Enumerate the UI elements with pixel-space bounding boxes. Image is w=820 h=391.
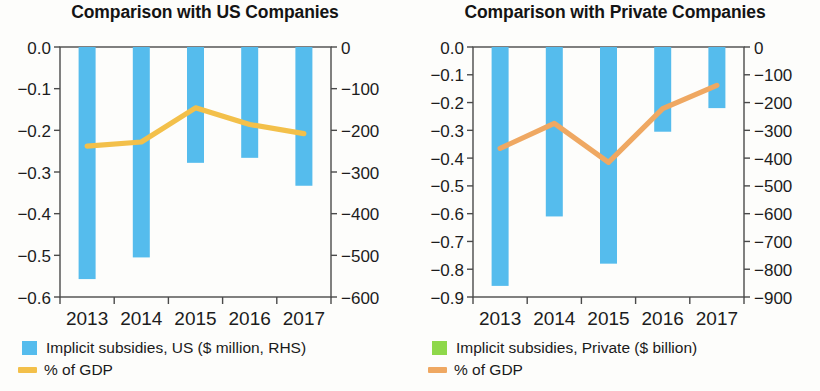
bar — [133, 47, 150, 257]
legend-item-line-private: % of GDP — [410, 359, 820, 381]
y-axis-left-tick-label: 0.0 — [440, 39, 464, 58]
x-axis-tick-label: 2015 — [174, 308, 216, 329]
y-axis-right-tick-label: −600 — [754, 205, 792, 224]
y-axis-left-tick-label: −0.8 — [430, 261, 464, 280]
legend-swatch-bar-icon — [22, 341, 37, 355]
y-axis-right-tick-label: −200 — [341, 122, 379, 141]
y-axis-left-tick-label: −0.3 — [430, 122, 464, 141]
legend-item-bars-us: Implicit subsidies, US ($ million, RHS) — [0, 337, 410, 359]
y-axis-right-tick-label: −300 — [754, 122, 792, 141]
legend-item-line-us: % of GDP — [0, 359, 410, 381]
y-axis-left-tick-label: −0.9 — [430, 289, 464, 308]
bar — [79, 47, 96, 279]
y-axis-right-tick-label: −700 — [754, 233, 792, 252]
legend-swatch-bar-icon — [432, 341, 447, 355]
y-axis-right-tick-label: −400 — [754, 150, 792, 169]
x-axis-tick-label: 2016 — [642, 308, 684, 329]
y-axis-right-tick-label: 0 — [754, 39, 763, 58]
x-axis-tick-label: 2017 — [283, 308, 325, 329]
chart-panel-us: Comparison with US Companies 0.0−0.1−0.2… — [0, 0, 410, 391]
y-axis-left-tick-label: −0.1 — [430, 66, 464, 85]
y-axis-right-tick-label: −300 — [341, 164, 379, 183]
y-axis-left-tick-label: 0.0 — [27, 39, 51, 58]
y-axis-left-tick-label: −0.6 — [430, 205, 464, 224]
y-axis-right-tick-label: −500 — [341, 247, 379, 266]
legend-swatch-line-icon — [18, 367, 37, 373]
bar — [492, 47, 509, 286]
plot-area-private: 0.0−0.1−0.2−0.3−0.4−0.5−0.6−0.7−0.8−0.90… — [410, 0, 820, 340]
y-axis-left-tick-label: −0.2 — [430, 94, 464, 113]
bar — [654, 47, 671, 132]
y-axis-right-tick-label: −800 — [754, 261, 792, 280]
y-axis-right-tick-label: −400 — [341, 205, 379, 224]
legend-label-bars-us: Implicit subsidies, US ($ million, RHS) — [46, 340, 306, 356]
bar — [187, 47, 204, 163]
x-axis-tick-label: 2014 — [120, 308, 163, 329]
legend-private: Implicit subsidies, Private ($ billion) … — [410, 337, 820, 381]
figure-container: Comparison with US Companies 0.0−0.1−0.2… — [0, 0, 820, 391]
legend-label-line-private: % of GDP — [454, 362, 523, 378]
legend-us: Implicit subsidies, US ($ million, RHS) … — [0, 337, 410, 381]
y-axis-left-tick-label: −0.3 — [17, 164, 51, 183]
chart-svg-us: 0.0−0.1−0.2−0.3−0.4−0.5−0.60−100−200−300… — [0, 0, 410, 340]
y-axis-right-tick-label: −500 — [754, 177, 792, 196]
x-axis-tick-label: 2014 — [533, 308, 576, 329]
bar — [708, 47, 725, 108]
y-axis-left-tick-label: −0.7 — [430, 233, 464, 252]
y-axis-left-tick-label: −0.4 — [430, 150, 464, 169]
y-axis-right-tick-label: −100 — [341, 80, 379, 99]
x-axis-tick-label: 2013 — [66, 308, 108, 329]
chart-svg-private: 0.0−0.1−0.2−0.3−0.4−0.5−0.6−0.7−0.8−0.90… — [410, 0, 820, 340]
x-axis-tick-label: 2015 — [587, 308, 629, 329]
y-axis-left-tick-label: −0.6 — [17, 289, 51, 308]
x-axis-tick-label: 2013 — [479, 308, 521, 329]
y-axis-left-tick-label: −0.5 — [17, 247, 51, 266]
y-axis-right-tick-label: −600 — [341, 289, 379, 308]
y-axis-right-tick-label: 0 — [341, 39, 350, 58]
x-axis-tick-label: 2016 — [229, 308, 271, 329]
legend-label-bars-private: Implicit subsidies, Private ($ billion) — [456, 340, 697, 356]
x-axis-tick-label: 2017 — [696, 308, 738, 329]
legend-swatch-line-icon — [428, 367, 447, 373]
y-axis-left-tick-label: −0.2 — [17, 122, 51, 141]
chart-panel-private: Comparison with Private Companies 0.0−0.… — [410, 0, 820, 391]
y-axis-left-tick-label: −0.1 — [17, 80, 51, 99]
legend-item-bars-private: Implicit subsidies, Private ($ billion) — [410, 337, 820, 359]
y-axis-left-tick-label: −0.5 — [430, 177, 464, 196]
bar — [241, 47, 258, 158]
y-axis-right-tick-label: −200 — [754, 94, 792, 113]
y-axis-right-tick-label: −100 — [754, 66, 792, 85]
plot-area-us: 0.0−0.1−0.2−0.3−0.4−0.5−0.60−100−200−300… — [0, 0, 410, 340]
legend-label-line-us: % of GDP — [44, 362, 113, 378]
y-axis-right-tick-label: −900 — [754, 289, 792, 308]
y-axis-left-tick-label: −0.4 — [17, 205, 51, 224]
bar — [295, 47, 312, 186]
bar — [546, 47, 563, 216]
